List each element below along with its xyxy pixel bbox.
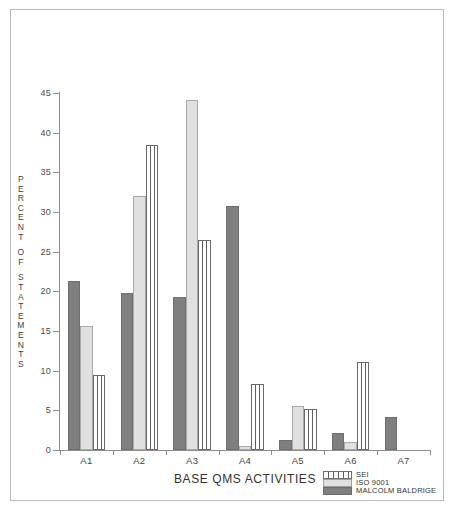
x-tick-label-a3: A3 — [172, 455, 212, 466]
y-tick — [53, 133, 60, 134]
y-tick — [53, 410, 60, 411]
x-tick — [324, 450, 325, 455]
x-tick — [377, 450, 378, 455]
y-tick-label: 10 — [27, 366, 51, 376]
y-tick-label: 25 — [27, 247, 51, 257]
x-tick-label-a5: A5 — [278, 455, 318, 466]
y-axis-title: PERCENTOFSTATEMENTS — [14, 175, 28, 369]
bar-a4-iso — [239, 446, 252, 450]
x-tick-label-a1: A1 — [66, 455, 106, 466]
x-tick-label-a7: A7 — [384, 455, 424, 466]
bar-a2-baldrige — [121, 293, 134, 450]
bar-a6-baldrige — [332, 433, 345, 450]
bar-a3-iso — [186, 100, 199, 450]
x-tick — [60, 450, 61, 455]
bar-a5-sei — [304, 409, 317, 450]
x-tick — [166, 450, 167, 455]
x-tick — [219, 450, 220, 455]
legend-item-baldrige: MALCOLM BALDRIGE — [323, 487, 436, 495]
y-tick — [53, 331, 60, 332]
y-tick — [53, 252, 60, 253]
chart-legend: SEIISO 9001MALCOLM BALDRIGE — [323, 471, 436, 495]
legend-swatch-baldrige-icon — [323, 487, 352, 495]
x-tick — [271, 450, 272, 455]
x-tick-label-a6: A6 — [331, 455, 371, 466]
y-tick — [53, 450, 60, 451]
legend-swatch-sei-icon — [323, 471, 352, 479]
x-tick-label-a4: A4 — [225, 455, 265, 466]
bar-a1-iso — [80, 326, 93, 450]
y-tick — [53, 93, 60, 94]
y-tick-label: 35 — [27, 167, 51, 177]
bar-a7-baldrige — [385, 417, 398, 450]
x-tick-label-a2: A2 — [119, 455, 159, 466]
x-tick — [113, 450, 114, 455]
bar-a6-iso — [344, 442, 357, 450]
bar-a2-sei — [146, 145, 159, 450]
y-tick-label: 0 — [27, 445, 51, 455]
bar-a4-sei — [251, 384, 264, 450]
y-axis-title-letter: S — [14, 360, 28, 370]
y-tick — [53, 172, 60, 173]
y-tick-label: 5 — [27, 405, 51, 415]
bar-a1-baldrige — [68, 281, 81, 450]
x-tick — [430, 450, 431, 455]
bar-a3-baldrige — [173, 297, 186, 450]
y-axis-line — [59, 92, 60, 451]
y-tick-label: 15 — [27, 326, 51, 336]
bar-a2-iso — [133, 196, 146, 450]
bar-a5-baldrige — [279, 440, 292, 450]
y-tick — [53, 371, 60, 372]
legend-label-baldrige: MALCOLM BALDRIGE — [356, 487, 436, 495]
y-axis-title-letter: T — [14, 233, 28, 243]
y-axis-title-letter: F — [14, 258, 28, 268]
y-tick — [53, 291, 60, 292]
legend-swatch-iso-icon — [323, 479, 352, 487]
bar-a6-sei — [357, 362, 370, 450]
x-axis-line — [59, 450, 431, 451]
bar-a1-sei — [93, 375, 106, 450]
bar-chart: 051015202530354045 A1A2A3A4A5A6A7 PERCEN… — [0, 0, 457, 517]
bar-a4-baldrige — [226, 206, 239, 450]
y-tick — [53, 212, 60, 213]
y-tick-label: 45 — [27, 88, 51, 98]
y-tick-label: 30 — [27, 207, 51, 217]
y-tick-label: 40 — [27, 128, 51, 138]
bar-a3-sei — [198, 240, 211, 450]
y-tick-label: 20 — [27, 286, 51, 296]
bar-a5-iso — [292, 406, 305, 450]
